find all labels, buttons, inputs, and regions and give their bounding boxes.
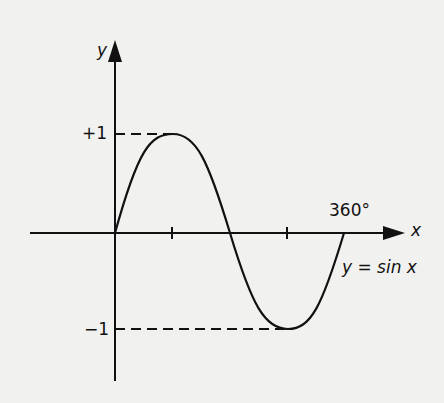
minus-one-label: −1 <box>84 321 109 338</box>
curve-label: y = sin x <box>342 259 417 276</box>
sine-diagram <box>0 0 444 403</box>
sine-curve <box>115 134 344 329</box>
x-end-label: 360° <box>329 202 370 219</box>
y-axis-arrow-icon <box>108 40 122 62</box>
x-axis-arrow-icon <box>383 226 405 240</box>
plus-one-label: +1 <box>82 125 107 142</box>
x-axis-label: x <box>411 222 421 239</box>
y-axis-label: y <box>97 42 107 59</box>
